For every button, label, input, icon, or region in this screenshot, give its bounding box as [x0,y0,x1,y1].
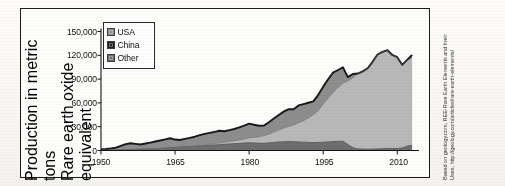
chart-legend: USA China Other [103,22,155,69]
legend-swatch-usa [107,28,115,36]
legend-label-china: China [118,40,140,50]
legend-swatch-other [107,54,115,62]
legend-item-other: Other [107,52,151,65]
legend-item-usa: USA [107,26,151,39]
source-attribution-line1: Based on geology.com, REE-Rare Earth Ele… [442,6,449,180]
source-attribution: Based on geology.com, REE-Rare Earth Ele… [436,6,462,180]
source-attribution-line2: Uses, http://geology.com/articles/rare-e… [449,6,456,180]
legend-label-usa: USA [118,27,135,37]
plot-area: Production in metric tons Rare earth oxi… [21,9,431,179]
legend-label-other: Other [118,53,139,63]
figure-frame: Production in metric tons Rare earth oxi… [20,8,430,178]
legend-item-china: China [107,39,151,52]
stacked-area-chart [21,9,431,179]
legend-swatch-china [107,41,115,49]
